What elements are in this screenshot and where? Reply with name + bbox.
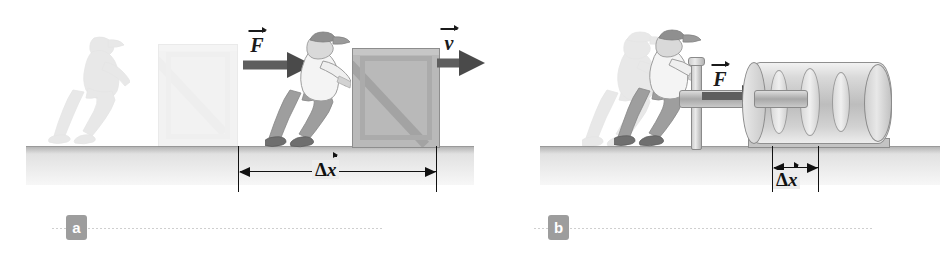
delta-symbol-b: Δ: [776, 169, 788, 190]
physics-figure: F: [0, 0, 947, 254]
panel-badge-b-text: b: [554, 219, 563, 236]
panel-badge-a: a: [66, 215, 87, 240]
displacement-arrowhead-right-b: [807, 163, 818, 173]
velocity-arrow-a: [437, 50, 477, 76]
displacement-vector-accent-b: [796, 165, 799, 167]
handle-post-cap-b: [688, 57, 705, 66]
force-vector-label-b: F: [707, 58, 733, 89]
displacement-label-b: Δx: [773, 170, 800, 189]
displacement-vector-accent-a: [335, 155, 338, 157]
roller-b: [744, 58, 892, 150]
displacement-x-b: x: [788, 170, 798, 189]
panel-b: F Δx: [474, 0, 947, 254]
ground-surface-b: [540, 146, 940, 185]
panel-a: F: [0, 0, 474, 254]
panel-badge-b: b: [548, 215, 569, 240]
force-vector-arrow-accent-b: [707, 58, 733, 69]
force-arrow-shaft-b: [702, 92, 746, 100]
crate-top-edge-a: [353, 49, 439, 55]
displacement-x-symbol-b: x: [788, 169, 798, 190]
crate-ghost-inner-frame: [166, 52, 230, 139]
person-ghost-a: [48, 30, 130, 148]
displacement-x-a: x: [327, 160, 337, 179]
displacement-end-tick-b: [818, 146, 819, 192]
displacement-label-a: Δx: [312, 160, 339, 179]
caption-rule-a: [52, 228, 382, 229]
displacement-arrowhead-left-a: [239, 167, 250, 177]
person-a: [265, 30, 351, 150]
roller-axle-stub-b: [754, 90, 808, 108]
crate-ghost-face: [158, 44, 238, 147]
delta-symbol-a: Δ: [315, 159, 327, 180]
roller-ring-3-b: [832, 72, 850, 132]
velocity-vector-label-a: v: [437, 22, 461, 53]
crate-a: [352, 48, 440, 148]
displacement-arrowhead-right-a: [425, 167, 436, 177]
panel-badge-a-text: a: [72, 219, 80, 236]
displacement-end-tick-a: [436, 146, 437, 192]
caption-rule-b: [534, 228, 874, 229]
crate-ghost-a: [158, 44, 238, 147]
velocity-symbol-a: v: [437, 33, 461, 53]
roller-end-cap-right-b: [864, 64, 892, 142]
crate-face-a: [352, 48, 440, 148]
crate-inner-frame-a: [360, 56, 432, 140]
crate-ghost-top-edge: [159, 45, 237, 51]
force-symbol-b: F: [707, 69, 733, 89]
displacement-x-symbol-a: x: [327, 159, 337, 180]
person-b: [614, 28, 702, 150]
velocity-vector-arrow-accent-a: [437, 22, 461, 33]
